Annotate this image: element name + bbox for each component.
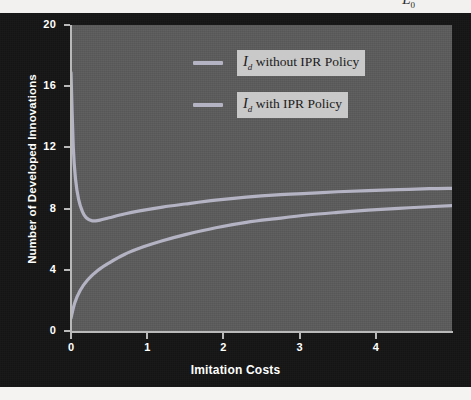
x-tick <box>375 333 377 339</box>
legend-swatch-with-ipr <box>193 103 223 107</box>
legend: Id without IPR Policy Id with IPR Policy <box>193 48 375 132</box>
x-tick-label: 0 <box>56 341 86 353</box>
x-tick <box>299 333 301 339</box>
legend-label-with-ipr: Id with IPR Policy <box>237 92 348 118</box>
y-tick-label: 0 <box>10 324 56 336</box>
x-tick <box>70 333 72 339</box>
x-tick-label: 2 <box>208 341 238 353</box>
y-axis-title: Number of Developed Innovations <box>26 44 38 294</box>
page-top-margin: L0 <box>0 0 471 13</box>
x-axis-line <box>70 331 453 333</box>
y-tick <box>64 208 70 210</box>
figure-canvas: 048121620 01234 Number of Developed Inno… <box>0 13 471 387</box>
x-tick <box>146 333 148 339</box>
legend-entry: Id with IPR Policy <box>193 90 375 120</box>
legend-label-without-ipr: Id without IPR Policy <box>237 50 365 76</box>
x-tick-label: 1 <box>132 341 162 353</box>
y-tick <box>64 269 70 271</box>
clipped-formula-fragment: L0 <box>402 0 415 10</box>
y-tick <box>64 330 70 332</box>
y-tick <box>64 24 70 26</box>
y-axis-line <box>70 25 72 332</box>
x-tick <box>222 333 224 339</box>
legend-swatch-without-ipr <box>193 61 223 65</box>
x-axis-title: Imitation Costs <box>0 363 471 377</box>
y-tick-label: 20 <box>10 18 56 30</box>
y-tick <box>64 85 70 87</box>
legend-entry: Id without IPR Policy <box>193 48 375 78</box>
page-bottom-margin <box>0 387 471 400</box>
chart-screenshot: L0 048121620 01234 Number of Developed I… <box>0 0 471 400</box>
y-tick <box>64 146 70 148</box>
x-tick-label: 4 <box>361 341 391 353</box>
series-line-with-ipr <box>71 206 452 318</box>
x-tick-label: 3 <box>285 341 315 353</box>
